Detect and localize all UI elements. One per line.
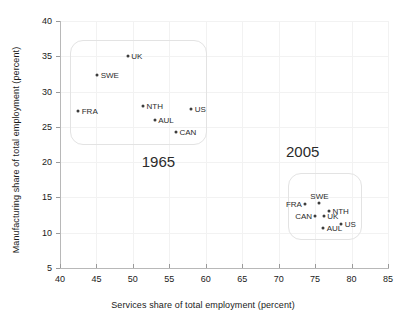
data-point-1965-NTH <box>142 104 145 107</box>
y-tick-label: 5 <box>30 263 52 273</box>
y-tick-label: 10 <box>30 228 52 238</box>
data-point-1965-CAN <box>174 130 177 133</box>
y-tick-label: 35 <box>30 51 52 61</box>
x-tick-mark <box>96 264 97 268</box>
x-tick-label: 80 <box>347 274 357 284</box>
gridline-vertical <box>388 21 389 268</box>
data-point-1965-UK <box>126 55 129 58</box>
y-tick-label: 20 <box>30 157 52 167</box>
x-tick-label: 85 <box>383 274 393 284</box>
x-tick-mark <box>242 264 243 268</box>
point-label-2005-US: US <box>345 220 356 229</box>
data-point-2005-US <box>340 223 343 226</box>
x-tick-mark <box>388 264 389 268</box>
y-tick-mark <box>56 197 60 198</box>
data-point-1965-FRA <box>77 109 80 112</box>
y-tick-mark <box>56 268 60 269</box>
x-tick-mark <box>60 264 61 268</box>
scatter-chart: 40455055606570758085 510152025303540 UKS… <box>0 0 406 322</box>
y-axis-line <box>60 21 61 269</box>
x-tick-label: 40 <box>55 274 65 284</box>
y-tick-mark <box>56 127 60 128</box>
x-tick-label: 50 <box>128 274 138 284</box>
gridline-horizontal <box>61 21 389 22</box>
point-label-1965-US: US <box>195 105 206 114</box>
point-label-2005-CAN: CAN <box>295 211 312 220</box>
point-label-1965-FRA: FRA <box>82 106 98 115</box>
y-tick-mark <box>56 21 60 22</box>
data-point-1965-US <box>190 108 193 111</box>
data-point-2005-FRA <box>303 203 306 206</box>
y-tick-label: 40 <box>30 16 52 26</box>
y-tick-mark <box>56 56 60 57</box>
year-annotation-1965: 1965 <box>142 153 175 170</box>
y-tick-label: 15 <box>30 192 52 202</box>
x-tick-label: 45 <box>91 274 101 284</box>
point-label-1965-SWE: SWE <box>101 71 119 80</box>
gridline-vertical <box>279 21 280 268</box>
y-tick-mark <box>56 233 60 234</box>
data-point-2005-AUL <box>322 227 325 230</box>
x-tick-label: 60 <box>201 274 211 284</box>
y-tick-mark <box>56 162 60 163</box>
data-point-2005-CAN <box>314 214 317 217</box>
data-point-2005-SWE <box>318 202 321 205</box>
y-tick-label: 30 <box>30 87 52 97</box>
x-axis-title: Services share of total employment (perc… <box>0 300 406 310</box>
x-tick-label: 70 <box>274 274 284 284</box>
x-axis-line <box>60 268 389 269</box>
gridline-horizontal <box>61 162 389 163</box>
point-label-1965-AUL: AUL <box>158 115 174 124</box>
x-tick-mark <box>169 264 170 268</box>
y-tick-label: 25 <box>30 122 52 132</box>
data-point-1965-AUL <box>153 118 156 121</box>
year-annotation-2005: 2005 <box>286 143 319 160</box>
x-tick-label: 75 <box>310 274 320 284</box>
data-point-1965-SWE <box>96 74 99 77</box>
x-tick-label: 55 <box>164 274 174 284</box>
point-label-1965-NTH: NTH <box>147 101 163 110</box>
point-label-1965-CAN: CAN <box>179 127 196 136</box>
y-axis-title: Manufacturing share of total employment … <box>11 17 21 283</box>
gridline-vertical <box>242 21 243 268</box>
y-tick-mark <box>56 92 60 93</box>
x-tick-label: 65 <box>237 274 247 284</box>
point-label-2005-SWE: SWE <box>310 192 328 201</box>
data-point-2005-UK <box>322 215 325 218</box>
x-tick-mark <box>133 264 134 268</box>
x-tick-mark <box>352 264 353 268</box>
point-label-1965-UK: UK <box>131 52 142 61</box>
x-tick-mark <box>315 264 316 268</box>
point-label-2005-UK: UK <box>327 212 338 221</box>
point-label-2005-FRA: FRA <box>286 200 302 209</box>
x-tick-mark <box>279 264 280 268</box>
x-tick-mark <box>206 264 207 268</box>
